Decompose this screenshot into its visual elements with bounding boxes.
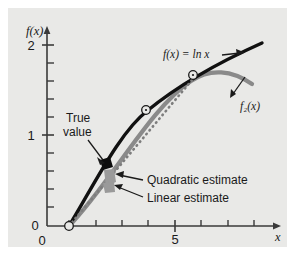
x-axis-title: x xyxy=(274,230,281,244)
linear-estimate-label: Linear estimate xyxy=(147,191,229,205)
y-tick-label-2: 2 xyxy=(27,38,34,53)
x-minor-ticks xyxy=(69,220,254,226)
x-tick-label-5: 5 xyxy=(171,232,178,247)
y-axis-arrowhead xyxy=(44,26,51,34)
x-origin-label: 0 xyxy=(38,233,45,248)
x-axis-arrowhead xyxy=(273,223,281,230)
figure-container: f(x) x 2 1 0 0 5 f(x) = ln x f₂(x) True … xyxy=(0,0,293,257)
true-value-label-line1: True xyxy=(66,111,91,125)
y-tick-label-1: 1 xyxy=(27,128,34,143)
node-marker-x1 xyxy=(65,222,74,231)
plot-canvas: f(x) x 2 1 0 0 5 f(x) = ln x f₂(x) True … xyxy=(0,0,293,257)
quadratic-estimate-label: Quadratic estimate xyxy=(147,173,248,187)
y-axis-title: f(x) xyxy=(26,24,43,38)
y-major-ticks xyxy=(42,45,54,135)
linear-estimate-marker xyxy=(103,181,115,193)
true-value-label-line2: value xyxy=(63,125,92,139)
ln-function-label: f(x) = ln x xyxy=(163,48,210,61)
y-origin-label: 0 xyxy=(31,218,38,233)
quadratic-arrowhead xyxy=(115,171,124,178)
linear-arrow-line xyxy=(118,187,143,197)
node-marker-x4-center xyxy=(145,109,147,111)
true-value-arrow-line xyxy=(88,140,103,160)
node-marker-x6-center xyxy=(192,74,194,76)
annotation-arrowheads-group xyxy=(97,49,245,190)
f2-function-label: f₂(x) xyxy=(240,100,260,113)
f2-label-arrow-line xyxy=(233,77,245,94)
